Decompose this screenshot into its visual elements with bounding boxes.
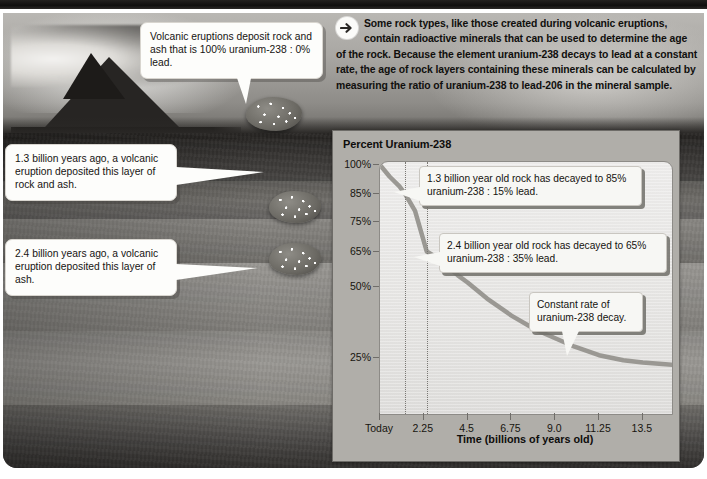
y-tick: [373, 193, 379, 194]
callout-layer-2-4-text: 2.4 billion years ago, a volcanic erupti…: [15, 248, 158, 285]
annotation-tail: [394, 187, 420, 201]
rock-sample-bottom: [269, 243, 321, 275]
rock-sample-middle: [269, 191, 321, 223]
y-tick: [373, 357, 379, 358]
annotation-2-4-text: 2.4 billion year old rock has decayed to…: [447, 240, 646, 264]
annotation-constant-rate-text: Constant rate of uranium-238 decay.: [537, 299, 626, 323]
callout-layer-1-3-billion: 1.3 billion years ago, a volcanic erupti…: [5, 144, 177, 201]
callout-layer-2-4-billion: 2.4 billion years ago, a volcanic erupti…: [5, 239, 177, 296]
callout-tail: [176, 167, 264, 185]
intro-paragraph: Some rock types, like those created duri…: [336, 16, 698, 93]
callout-tail: [176, 264, 258, 280]
y-tick-label: 50%: [350, 280, 371, 292]
y-tick-label: 85%: [350, 187, 371, 199]
x-tick: [642, 413, 643, 420]
chart-x-axis-label: Time (billions of years old): [379, 433, 671, 445]
annotation-1-3-billion: 1.3 billion year old rock has decayed to…: [419, 166, 642, 206]
y-tick: [373, 221, 379, 222]
x-tick: [379, 413, 380, 420]
y-tick-label: 75%: [350, 215, 371, 227]
x-tick: [554, 413, 555, 420]
rock-sample-top: [246, 97, 302, 131]
chart-title: Percent Uranium-238: [343, 138, 451, 150]
annotation-tail: [562, 331, 579, 356]
y-tick: [373, 164, 379, 165]
top-dark-strip: [0, 0, 707, 9]
arrow-right-circle-icon: [336, 17, 358, 39]
annotation-1-3-text: 1.3 billion year old rock has decayed to…: [427, 173, 626, 197]
volcano-summit: [63, 53, 125, 99]
y-tick: [373, 251, 379, 252]
y-tick-label: 65%: [350, 245, 371, 257]
radioactive-dating-figure: Some rock types, like those created duri…: [0, 0, 707, 479]
callout-eruption-deposit-text: Volcanic eruptions deposit rock and ash …: [150, 31, 312, 68]
annotation-2-4-billion: 2.4 billion year old rock has decayed to…: [439, 233, 667, 273]
x-tick: [598, 413, 599, 420]
intro-text: Some rock types, like those created duri…: [336, 18, 697, 91]
y-tick: [373, 286, 379, 287]
x-tick: [510, 413, 511, 420]
callout-eruption-deposit: Volcanic eruptions deposit rock and ash …: [140, 22, 323, 79]
y-tick-label: 100%: [344, 158, 371, 170]
x-tick: [423, 413, 424, 420]
callout-tail: [237, 78, 251, 104]
annotation-constant-rate: Constant rate of uranium-238 decay.: [529, 292, 643, 332]
annotation-tail: [414, 252, 440, 266]
uranium-decay-chart: Percent Uranium-238 100%85%75%65%50%25% …: [332, 130, 680, 462]
y-tick-label: 25%: [350, 351, 371, 363]
callout-layer-1-3-text: 1.3 billion years ago, a volcanic erupti…: [15, 153, 158, 190]
x-tick: [467, 413, 468, 420]
